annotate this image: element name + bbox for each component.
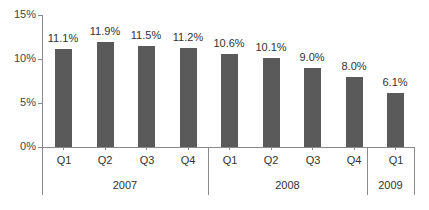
x-label: Q1	[49, 154, 79, 166]
x-label: Q1	[381, 154, 411, 166]
x-tick	[271, 147, 272, 150]
bar	[263, 58, 280, 147]
group-label-2008: 2008	[208, 179, 367, 191]
group-label-2007: 2007	[42, 179, 208, 191]
y-tick-5	[38, 103, 42, 104]
x-tick	[354, 147, 355, 150]
x-tick	[188, 147, 189, 150]
x-label: Q4	[339, 154, 369, 166]
x-label: Q3	[132, 154, 162, 166]
x-tick	[229, 147, 230, 150]
bar-value-label: 11.5%	[126, 29, 166, 41]
bar	[138, 46, 155, 147]
bar	[221, 54, 238, 147]
bar-value-label: 6.1%	[375, 76, 415, 88]
x-tick	[105, 147, 106, 150]
bar	[97, 42, 114, 147]
x-tick	[63, 147, 64, 150]
y-tick-label-0: 0%	[0, 140, 36, 152]
x-label: Q3	[298, 154, 328, 166]
bar-value-label: 10.1%	[251, 41, 291, 53]
x-tick	[395, 147, 396, 150]
x-tick	[312, 147, 313, 150]
bar-chart: 15% 10% 5% 0% 11.1%11.9%11.5%11.2%10.6%1…	[0, 0, 429, 210]
x-label: Q2	[256, 154, 286, 166]
bar-value-label: 10.6%	[209, 37, 249, 49]
x-label: Q4	[173, 154, 203, 166]
bar	[387, 93, 404, 147]
group-separator	[414, 147, 415, 195]
x-axis-line	[38, 147, 415, 148]
x-label: Q1	[215, 154, 245, 166]
y-tick-15	[38, 15, 42, 16]
bar-value-label: 11.9%	[85, 25, 125, 37]
y-tick-label-5: 5%	[0, 96, 36, 108]
bar-value-label: 11.1%	[43, 32, 83, 44]
x-label: Q2	[90, 154, 120, 166]
bar	[55, 49, 72, 147]
bar-value-label: 8.0%	[334, 60, 374, 72]
y-tick-label-10: 10%	[0, 52, 36, 64]
group-label-2009: 2009	[367, 179, 414, 191]
y-tick-10	[38, 59, 42, 60]
y-tick-label-15: 15%	[0, 8, 36, 20]
bar	[304, 68, 321, 147]
x-tick	[146, 147, 147, 150]
bar	[180, 48, 197, 147]
bar	[346, 77, 363, 147]
bar-value-label: 9.0%	[292, 51, 332, 63]
bar-value-label: 11.2%	[168, 31, 208, 43]
